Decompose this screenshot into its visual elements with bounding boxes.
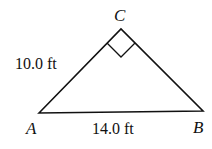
vertex-label-c: C [114, 6, 126, 25]
vertex-label-b: B [193, 118, 204, 137]
right-angle-marker [107, 43, 135, 57]
vertex-label-a: A [25, 119, 37, 138]
side-label-ac: 10.0 ft [15, 55, 57, 72]
side-label-ab: 14.0 ft [92, 120, 134, 137]
triangle-abc [39, 29, 203, 113]
triangle-diagram: C A B 10.0 ft 14.0 ft [0, 0, 212, 149]
